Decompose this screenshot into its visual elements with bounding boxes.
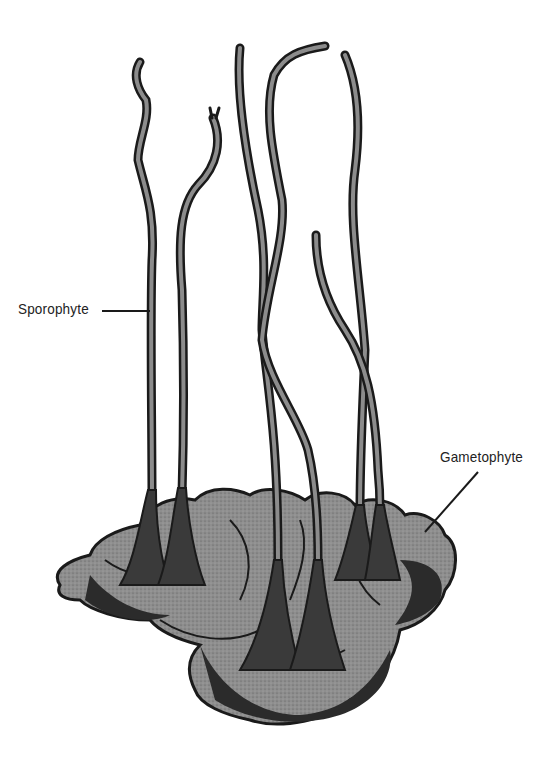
gametophyte-leader-line	[425, 472, 478, 532]
sporophyte-label: Sporophyte	[18, 300, 89, 317]
gametophyte-label: Gametophyte	[440, 448, 523, 465]
sporophyte-stalks	[136, 46, 380, 560]
hornwort-illustration	[0, 0, 559, 757]
gametophyte-thallus	[57, 489, 455, 724]
